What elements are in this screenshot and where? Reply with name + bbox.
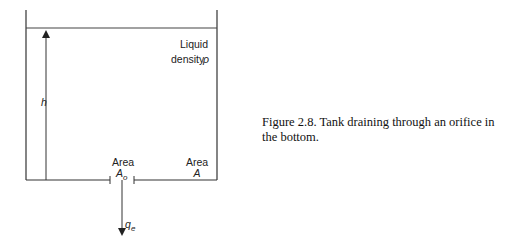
height-label: h xyxy=(41,96,47,108)
liquid-label: Liquid xyxy=(180,38,208,50)
figure-caption: Figure 2.8. Tank draining through an ori… xyxy=(262,115,502,145)
tank-area-symbol: A xyxy=(192,167,200,179)
density-label: density xyxy=(171,53,205,65)
orifice-area-subscript: o xyxy=(123,173,128,182)
density-symbol: ρ xyxy=(202,53,209,65)
orifice-area-symbol: A xyxy=(115,167,123,179)
flow-subscript: e xyxy=(131,224,136,233)
